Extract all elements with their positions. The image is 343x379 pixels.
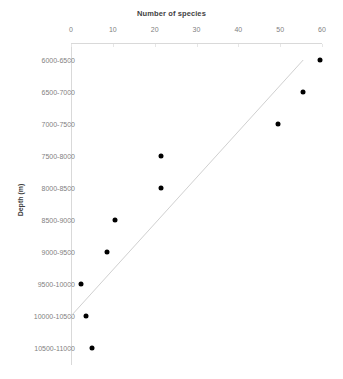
y-tick-mark (68, 220, 71, 221)
x-tick-mark (322, 44, 323, 47)
scatter-chart: Number of species 0102030405060 6000-650… (0, 0, 343, 379)
y-tick-mark (68, 60, 71, 61)
x-tick-mark (238, 44, 239, 47)
x-tick-mark (71, 44, 72, 47)
y-tick-mark (68, 252, 71, 253)
data-point (89, 346, 94, 351)
y-axis-title: Depth (m) (17, 184, 24, 217)
data-point (276, 122, 281, 127)
data-point (104, 250, 109, 255)
y-tick-mark (68, 188, 71, 189)
x-tick-label: 20 (140, 26, 170, 33)
y-tick-mark (68, 156, 71, 157)
y-tick-mark (68, 92, 71, 93)
x-tick-label: 10 (98, 26, 128, 33)
data-point (301, 90, 306, 95)
x-tick-mark (280, 44, 281, 47)
x-tick-mark (113, 44, 114, 47)
y-tick-mark (68, 284, 71, 285)
data-point (158, 186, 163, 191)
x-tick-mark (155, 44, 156, 47)
y-tick-mark (68, 316, 71, 317)
x-tick-label: 60 (307, 26, 337, 33)
data-point (112, 218, 117, 223)
plot-area: 0102030405060 6000-65006500-70007000-750… (0, 0, 343, 379)
y-tick-mark (68, 348, 71, 349)
data-point (317, 58, 322, 63)
x-tick-label: 50 (265, 26, 295, 33)
x-tick-label: 30 (182, 26, 212, 33)
data-point (79, 282, 84, 287)
x-tick-label: 40 (223, 26, 253, 33)
y-tick-mark (68, 124, 71, 125)
x-tick-mark (197, 44, 198, 47)
data-point (83, 314, 88, 319)
x-tick-label: 0 (56, 26, 86, 33)
data-point (158, 154, 163, 159)
